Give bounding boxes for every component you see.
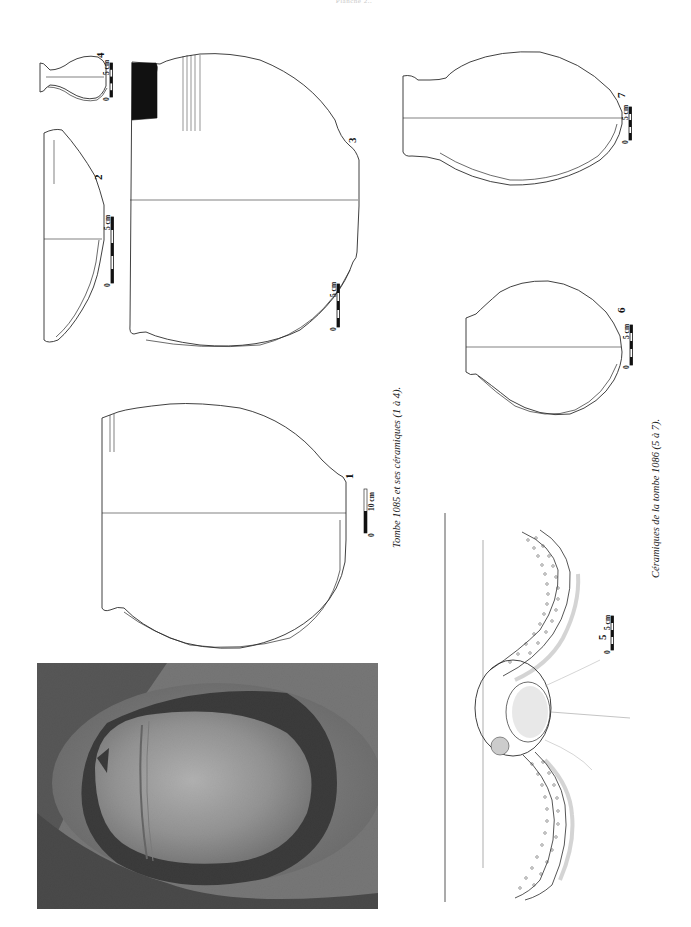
- vessel-7-drawing: [403, 52, 622, 185]
- vessel-3-rim-section: [132, 63, 157, 120]
- vessel-5-scale-unit: 5 cm: [604, 615, 612, 630]
- caption-tombe-1085: Tombe 1085 et ses céramiques (1 à 4).: [391, 387, 402, 548]
- photo-image: [37, 663, 378, 909]
- vessel-4-drawing: [40, 56, 107, 101]
- vessel-2-label: 2: [93, 175, 104, 181]
- grave-photograph: [37, 663, 378, 909]
- caption-tombe-1086: Céramiques de la tombe 1086 (5 à 7).: [650, 419, 661, 578]
- vessel-6-scale-unit: 5 cm: [623, 324, 631, 339]
- vessel-1-scale-zero: 0: [368, 533, 376, 537]
- vessel-2-drawing: [44, 129, 104, 342]
- vessel-4-scale-zero: 0: [103, 97, 111, 101]
- vessel-3-drawing: [130, 54, 359, 347]
- vessel-6-drawing: [466, 281, 622, 415]
- vessel-5-scale-zero: 0: [604, 650, 612, 654]
- vessel-2-scale-unit: 5 cm: [104, 215, 112, 230]
- vessel-1-drawing: [102, 404, 346, 649]
- vessel-3-label: 3: [347, 138, 358, 144]
- vessel-4-label: 4: [95, 53, 106, 59]
- vessel-7-scale-unit: 5 cm: [622, 105, 630, 120]
- vessel-7-label: 7: [616, 93, 627, 99]
- vessel-6-scale-zero: 0: [623, 365, 631, 369]
- vessel-1-label: 1: [344, 474, 355, 480]
- archaeology-plate: Planche 2..: [0, 0, 691, 927]
- vessel-5-label: 5: [597, 635, 608, 641]
- vessel-3-scale-zero: 0: [330, 327, 338, 331]
- vessel-1-scale-unit: 10 cm: [368, 492, 376, 511]
- vessel-2-scale-zero: 0: [104, 283, 112, 287]
- vessel-4-scale-unit: 5 cm: [103, 60, 111, 75]
- vessel-6-label: 6: [616, 308, 627, 314]
- vessel-5-drawing: [445, 513, 630, 902]
- vessel-3-scale-unit: 5 cm: [330, 282, 338, 297]
- vessel-7-scale-zero: 0: [622, 140, 630, 144]
